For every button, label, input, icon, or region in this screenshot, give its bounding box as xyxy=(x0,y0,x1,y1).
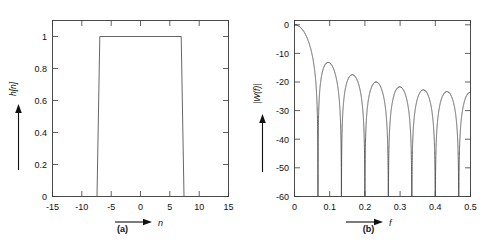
panel-b-ytick-1: -10 xyxy=(276,49,289,59)
panel-b-right-ticks xyxy=(465,25,471,197)
panel-a-caption: (a) xyxy=(0,224,245,234)
panel-b-xtick-4: 0.4 xyxy=(429,202,442,212)
panel-a-ytick-0: 0 xyxy=(42,192,47,202)
panel-b-x-ticks xyxy=(295,191,471,197)
panel-a-y-ticks xyxy=(53,37,59,197)
panel-a-top-ticks xyxy=(53,21,229,27)
panel-b-ytick-2: -20 xyxy=(276,77,289,87)
panel-a-xtick-5: 10 xyxy=(194,202,204,212)
panel-a-xtick-0: -15 xyxy=(46,202,59,212)
panel-a-x-ticks xyxy=(53,191,229,197)
panel-a-ytick-5: 1 xyxy=(42,32,47,42)
panel-a-xtick-6: 15 xyxy=(223,202,233,212)
panel-a-xtick-3: 0 xyxy=(138,202,143,212)
panel-b: |W(f)| xyxy=(246,0,491,247)
panel-b-ytick-6: -60 xyxy=(276,192,289,202)
panel-a-axes-frame xyxy=(53,21,229,197)
panel-b-plot: 0 0.1 0.2 0.3 0.4 0.5 0 -10 -20 -30 -40 … xyxy=(246,0,491,247)
panel-b-ytick-0: 0 xyxy=(284,20,289,30)
panel-b-top-ticks xyxy=(295,21,471,27)
panel-b-axes-frame xyxy=(295,21,471,197)
panel-b-caption: (b) xyxy=(246,224,491,234)
panel-a-right-ticks xyxy=(223,37,229,197)
panel-b-ytick-5: -50 xyxy=(276,163,289,173)
panel-b-xtick-2: 0.2 xyxy=(359,202,372,212)
panel-b-xtick-3: 0.3 xyxy=(394,202,407,212)
panel-b-y-arrow xyxy=(259,114,266,172)
panel-a: h[n] xyxy=(0,0,245,247)
panel-b-spectrum-curve xyxy=(295,25,471,208)
panel-a-xtick-4: 5 xyxy=(167,202,172,212)
panel-a-xtick-1: -10 xyxy=(75,202,88,212)
panel-b-xtick-0: 0 xyxy=(292,202,297,212)
panel-b-xtick-1: 0.1 xyxy=(323,202,336,212)
panel-a-ytick-2: 0.4 xyxy=(34,128,47,138)
panel-b-ytick-4: -40 xyxy=(276,135,289,145)
panel-a-ytick-4: 0.8 xyxy=(34,64,47,74)
panel-a-xtick-2: -5 xyxy=(107,202,115,212)
panel-b-ytick-3: -30 xyxy=(276,106,289,116)
panel-b-y-ticks xyxy=(295,25,301,197)
figure-container: h[n] xyxy=(0,0,491,247)
panel-a-ytick-3: 0.6 xyxy=(34,96,47,106)
panel-a-window-curve xyxy=(72,37,209,197)
panel-a-y-arrow xyxy=(15,104,22,170)
panel-a-ytick-1: 0.2 xyxy=(34,160,47,170)
panel-b-xtick-5: 0.5 xyxy=(464,202,477,212)
panel-a-plot: -15 -10 -5 0 5 10 15 0 0.2 0.4 0.6 0.8 1… xyxy=(0,0,245,247)
